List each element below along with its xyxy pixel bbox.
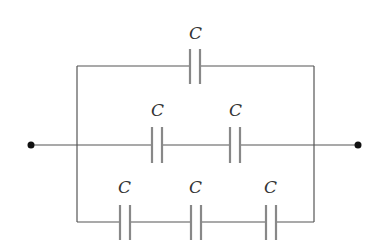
capacitor-label: C <box>189 177 202 197</box>
capacitor-circuit-diagram: C C C C C C <box>0 0 377 251</box>
capacitor-label: C <box>118 177 131 197</box>
capacitor-label: C <box>189 23 202 43</box>
circuit-svg: C C C C C C <box>0 0 377 251</box>
top-branch: C <box>77 23 314 84</box>
left-terminal-dot <box>28 142 35 149</box>
capacitor-label: C <box>264 177 277 197</box>
right-terminal-dot <box>355 142 362 149</box>
capacitor-label: C <box>151 100 164 120</box>
middle-branch: C C <box>31 100 358 163</box>
capacitor-label: C <box>229 100 242 120</box>
bottom-branch: C C C <box>77 177 314 240</box>
